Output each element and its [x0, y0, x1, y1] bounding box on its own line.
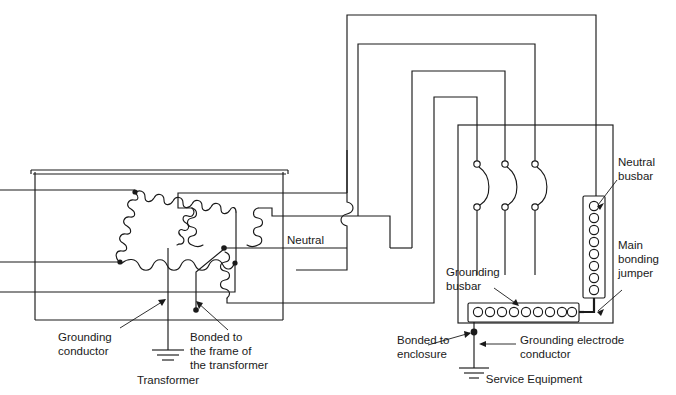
- neutral-busbar-hole: [589, 261, 598, 270]
- leader-bonded-frame: [197, 302, 228, 330]
- grounding-busbar-hole: [509, 307, 518, 316]
- label-transformer: Transformer: [137, 374, 199, 386]
- breaker-3-arc: [537, 167, 547, 205]
- wye-coil-bottom: [221, 252, 230, 298]
- grounding-busbar-hole: [545, 307, 554, 316]
- wye-coil-left: [179, 208, 194, 244]
- label-bonded-frame-line1: Bonded to: [190, 331, 242, 343]
- wye-coil-left-join: [177, 244, 179, 245]
- main-bonding-jumper-wire: [584, 298, 594, 312]
- grounding-busbar-hole: [485, 307, 494, 316]
- leader-grounding-conductor: [120, 300, 165, 328]
- breaker-1-arc: [479, 167, 489, 205]
- neutral-busbar-hole: [589, 249, 598, 258]
- grounding-busbar-hole: [521, 307, 530, 316]
- wye-bonding-jumper: [196, 249, 224, 310]
- circuit-breaker-3[interactable]: [532, 125, 547, 275]
- arrowhead-grounding-electrode: [479, 341, 486, 347]
- delta-node-right: [232, 260, 237, 265]
- feeder-b-seg2: [358, 44, 535, 216]
- delta-coil-left: [116, 193, 138, 262]
- label-main-bonding-line2: bonding: [618, 253, 659, 265]
- wye-arm-right-lead: [258, 208, 296, 216]
- delta-coil-right: [135, 191, 236, 214]
- grounding-busbar-hole: [533, 307, 542, 316]
- feeder-outer-loop: [347, 15, 596, 150]
- neutral-label-stub: [296, 248, 347, 270]
- label-grounding-electrode-line2: conductor: [520, 348, 571, 360]
- grounding-busbar-hole: [473, 307, 482, 316]
- label-neutral-busbar-line2: busbar: [618, 170, 653, 182]
- arrowhead-bonded-enclosure: [464, 331, 471, 338]
- circuit-breakers: [474, 125, 547, 275]
- breaker-1-bottom-terminal: [474, 204, 480, 210]
- arrowhead-grounding-conductor: [158, 299, 166, 306]
- arrowhead-main-bonding-jumper: [597, 309, 604, 316]
- breaker-1-top-terminal: [474, 161, 480, 167]
- delta-node-left: [117, 259, 122, 264]
- delta-node-apex: [132, 189, 137, 194]
- breaker-2-top-terminal: [502, 161, 508, 167]
- transformer-grounding-electrode: [152, 248, 184, 360]
- schematic-svg: Neutral Grounding conductor Bonded to th…: [0, 0, 676, 395]
- grounding-busbar-hole: [497, 307, 506, 316]
- breaker-3-bottom-terminal: [532, 204, 538, 210]
- wye-arm-bottom-lead: [227, 298, 296, 303]
- delta-coil-bottom: [122, 259, 234, 270]
- label-grounding-conductor-line1: Grounding: [58, 331, 112, 343]
- neutral-busbar-hole: [589, 273, 598, 282]
- neutral-busbar-hole: [589, 237, 598, 246]
- wiring-diagram-root: Neutral Grounding conductor Bonded to th…: [0, 0, 676, 395]
- circuit-breaker-2[interactable]: [502, 125, 517, 275]
- label-main-bonding-line1: Main: [618, 239, 643, 251]
- main-bonding-jumper: [579, 298, 594, 312]
- feeder-b-hop-join: [358, 216, 390, 248]
- neutral-busbar-hole: [589, 285, 598, 294]
- breaker-2-bottom-terminal: [502, 204, 508, 210]
- label-grounding-conductor-line2: conductor: [58, 345, 109, 357]
- neutral-busbar[interactable]: [583, 125, 605, 298]
- label-bonded-frame-line3: the transformer: [190, 359, 268, 371]
- label-grounding-busbar-line2: busbar: [446, 280, 481, 292]
- label-main-bonding-line3: jumper: [617, 267, 653, 279]
- frame-bond-node: [193, 307, 199, 313]
- delta-primary-winding: [116, 189, 237, 270]
- grounding-busbar[interactable]: [468, 303, 579, 322]
- label-bonded-enclosure-line2: enclosure: [397, 348, 447, 360]
- circuit-breaker-1[interactable]: [474, 125, 489, 275]
- label-neutral: Neutral: [287, 234, 324, 246]
- label-grounding-busbar-line1: Grounding: [446, 266, 500, 278]
- neutral-busbar-hole: [589, 225, 598, 234]
- service-grounding-electrode: [459, 322, 489, 378]
- breaker-3-top-terminal: [532, 161, 538, 167]
- neutral-busbar-hole: [589, 213, 598, 222]
- breaker-2-arc: [507, 167, 517, 205]
- wye-coil-upper-left: [188, 208, 204, 247]
- grounding-busbar-hole: [557, 307, 566, 316]
- label-bonded-enclosure-line1: Bonded to: [397, 334, 449, 346]
- label-neutral-busbar-line1: Neutral: [618, 156, 655, 168]
- label-service-equipment: Service Equipment: [486, 373, 583, 385]
- feeder-conductors: [296, 15, 596, 303]
- grounding-busbar-hole: [567, 307, 576, 316]
- wye-center-node: [221, 245, 227, 251]
- wye-coil-upper-right: [247, 208, 263, 247]
- label-grounding-electrode-line1: Grounding electrode: [520, 334, 624, 346]
- label-bonded-frame-line2: the frame of: [190, 345, 252, 357]
- leader-neutral-busbar: [598, 180, 617, 205]
